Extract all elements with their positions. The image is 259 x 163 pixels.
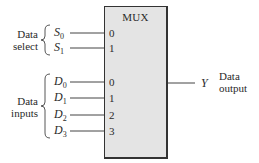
brace-inputs-icon [41, 74, 50, 138]
signal-y: Y [201, 77, 208, 89]
select-group-label: Data select [0, 28, 38, 52]
pin-d3: 3 [109, 125, 115, 137]
inputs-group-label: Data inputs [0, 95, 38, 119]
signal-d1: D1 [54, 91, 67, 108]
pin-s1: 1 [109, 42, 115, 54]
brace-select-icon [41, 25, 50, 55]
signal-d3: D3 [54, 124, 67, 141]
pin-d0: 0 [109, 76, 115, 88]
pin-s0: 0 [109, 27, 115, 39]
mux-title: MUX [105, 11, 166, 23]
output-label: Data output [219, 70, 247, 94]
signal-s1: S1 [54, 41, 64, 58]
pin-d1: 1 [109, 92, 115, 104]
pin-d2: 2 [109, 109, 115, 121]
